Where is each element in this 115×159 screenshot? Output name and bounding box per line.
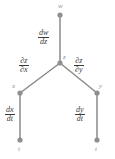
tree-graph-svg [0, 0, 115, 159]
node-label-t-right: t [95, 146, 97, 153]
node-x [17, 90, 22, 95]
node-z [57, 60, 62, 65]
node-t-left [17, 137, 22, 142]
edge-label-dz-dx: ∂z ∂x [19, 57, 29, 75]
edge-label-dx-dt: dx dt [5, 106, 15, 124]
edge-label-dy-dt-denominator: dt [75, 115, 85, 123]
node-label-x: x [12, 83, 15, 90]
edge-label-dw-dz: dw dz [38, 29, 49, 47]
edge-label-dz-dy: ∂z ∂y [74, 57, 84, 75]
edge-label-dx-dt-denominator: dt [5, 115, 15, 123]
edge-label-dy-dt: dy dt [75, 106, 85, 124]
edge-label-dw-dz-denominator: dz [38, 38, 49, 46]
node-label-z: z [63, 54, 66, 61]
edge-label-dz-dy-denominator: ∂y [74, 66, 84, 74]
node-label-t-left: t [18, 146, 20, 153]
node-t-right [94, 137, 99, 142]
node-y [94, 90, 99, 95]
node-w [57, 12, 62, 17]
chain-rule-tree-diagram: w z x y t t dw dz ∂z ∂x ∂z ∂y dx dt dy d… [0, 0, 115, 159]
edge-label-dz-dx-denominator: ∂x [19, 66, 29, 74]
node-label-y: y [99, 83, 102, 90]
node-label-w: w [58, 3, 63, 10]
